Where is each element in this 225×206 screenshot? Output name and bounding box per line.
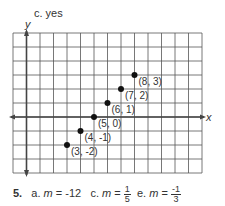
data-point	[105, 100, 111, 106]
answer-e-label: e.	[137, 187, 146, 199]
data-point	[64, 142, 70, 148]
data-point	[78, 128, 84, 134]
data-point	[91, 114, 97, 120]
answer-a-value: -12	[65, 187, 81, 199]
data-point	[132, 72, 138, 78]
point-label: (6, 1)	[112, 104, 135, 115]
answer-line: 5. a. m = -12 c. m = 15 e. m = -13	[13, 185, 181, 204]
point-label: (4, -1)	[85, 132, 112, 143]
point-label: (7, 2)	[125, 90, 148, 101]
answer-e-denominator: 3	[171, 195, 181, 204]
coordinate-graph	[0, 0, 225, 206]
answer-a-var: m	[44, 187, 53, 199]
answer-c-var: m	[102, 187, 111, 199]
point-label: (5, 0)	[98, 118, 121, 129]
answer-e-eq: =	[161, 187, 167, 199]
answer-c-label: c.	[90, 187, 99, 199]
answer-c-eq: =	[114, 187, 120, 199]
point-label: (3, -2)	[71, 146, 98, 157]
answer-e-fraction: -13	[171, 185, 181, 204]
point-label: (8, 3)	[139, 76, 162, 87]
x-axis-arrow-icon	[200, 115, 206, 120]
answer-c-fraction: 15	[124, 185, 131, 204]
answer-c-denominator: 5	[124, 195, 131, 204]
answer-a-eq: =	[56, 187, 62, 199]
answer-e-var: m	[149, 187, 158, 199]
answer-a-label: a.	[31, 187, 40, 199]
x-axis-arrow-icon	[9, 115, 15, 120]
y-axis-arrow-icon	[24, 29, 29, 36]
problem-number: 5.	[13, 187, 22, 199]
y-axis-arrow-icon	[24, 170, 29, 177]
data-point	[118, 86, 124, 92]
